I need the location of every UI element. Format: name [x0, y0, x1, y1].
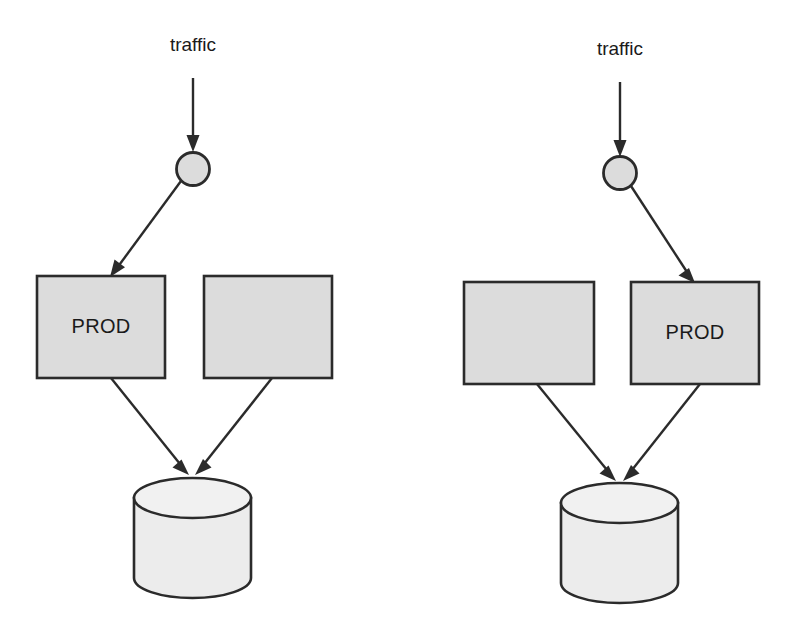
arrow-head-icon: [173, 460, 190, 476]
database-cylinder-top[interactable]: [134, 478, 251, 518]
deployment-box-idle[interactable]: [204, 276, 332, 378]
edge-idle-to-database: [537, 384, 616, 481]
arrow-head-icon: [600, 466, 617, 482]
edge-idle-to-database: [195, 378, 272, 475]
deployment-state-a-group: traffic PROD: [37, 34, 332, 598]
router-node[interactable]: [604, 157, 637, 190]
traffic-label: traffic: [170, 34, 216, 55]
deployment-box-idle[interactable]: [464, 282, 594, 384]
edge-traffic-to-router: [187, 78, 200, 152]
edge-router-to-prod: [110, 181, 181, 277]
database-cylinder[interactable]: [561, 483, 678, 603]
deployment-box-rect[interactable]: [204, 276, 332, 378]
edge-prod-to-database: [623, 384, 700, 481]
traffic-label: traffic: [597, 38, 643, 59]
deployment-box-prod[interactable]: PROD: [37, 276, 165, 378]
database-cylinder-top[interactable]: [561, 483, 678, 523]
flow-diagram: traffic PROD: [0, 0, 799, 635]
database-cylinder[interactable]: [134, 478, 251, 598]
deployment-state-b-group: traffic PROD: [464, 38, 759, 603]
deployment-box-prod[interactable]: PROD: [631, 282, 759, 384]
diagram-canvas: traffic PROD: [0, 0, 799, 635]
deployment-box-label: PROD: [72, 315, 131, 337]
arrow-head-icon: [187, 135, 200, 152]
arrow-head-icon: [623, 465, 640, 481]
deployment-box-label: PROD: [666, 321, 725, 343]
arrow-head-icon: [614, 140, 627, 157]
edge-traffic-to-router: [614, 82, 627, 157]
edge-prod-to-database: [111, 378, 189, 475]
deployment-box-rect[interactable]: [464, 282, 594, 384]
arrow-head-icon: [195, 459, 212, 475]
router-node[interactable]: [177, 153, 210, 186]
edge-router-to-prod: [631, 186, 695, 283]
